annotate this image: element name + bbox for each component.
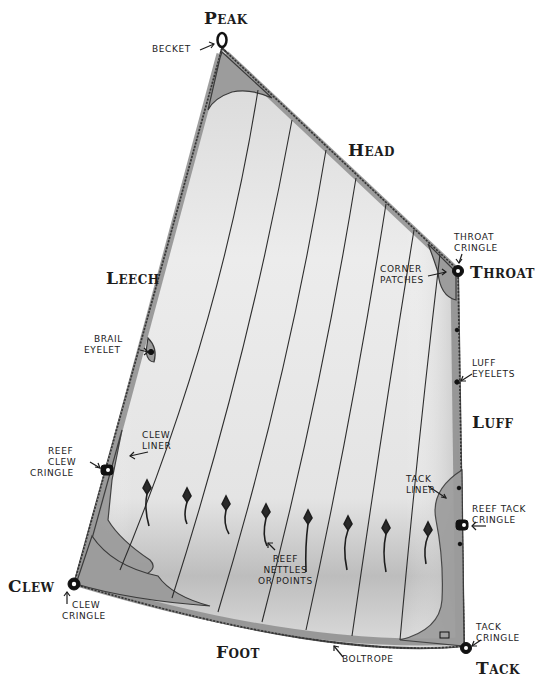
callout-corner-patches: CornerPatches <box>380 264 424 286</box>
luff-eyelet <box>455 380 459 384</box>
callout-clew-cringle: ClewCringle <box>62 600 106 622</box>
label-tack: Tack <box>476 660 520 677</box>
luff-eyelet <box>455 328 459 332</box>
luff-eyelet <box>457 486 461 490</box>
callout-tack-liner: TackLiner <box>406 474 435 496</box>
callout-reef-clew-cringle: ReefClewCringle <box>30 446 76 479</box>
callout-tack-cringle: TackCringle <box>476 622 520 644</box>
callout-clew-liner: ClewLiner <box>142 430 171 452</box>
callout-throat-cringle: ThroatCringle <box>454 232 498 254</box>
label-head: Head <box>348 142 395 159</box>
callout-reef-nettles: ReefNettlesor Points <box>258 554 313 587</box>
callout-reef-tack-cringle: Reef TackCringle <box>472 504 526 526</box>
callout-becket: Becket <box>152 44 191 55</box>
callout-boltrope: Boltrope <box>342 654 394 665</box>
label-clew: Clew <box>8 578 55 595</box>
callout-luff-eyelets: LuffEyelets <box>472 358 515 380</box>
brail-eyelet <box>148 349 153 354</box>
label-luff: Luff <box>472 414 513 431</box>
label-throat: Throat <box>470 264 535 281</box>
callout-brail-eyelet: BrailEyelet <box>84 334 123 356</box>
luff-eyelet <box>458 542 462 546</box>
label-leech: Leech <box>106 270 160 287</box>
label-foot: Foot <box>216 644 260 661</box>
becket-loop <box>218 33 227 47</box>
label-peak: Peak <box>204 10 248 27</box>
